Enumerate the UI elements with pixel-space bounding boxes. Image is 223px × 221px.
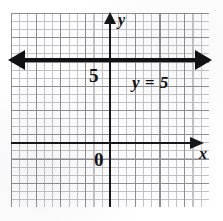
line-arrow-right-icon — [195, 50, 212, 70]
arrow-up-icon — [104, 12, 116, 24]
equation-label: y = 5 — [132, 74, 169, 91]
y-axis-tick-label-5: 5 — [89, 66, 99, 85]
y-axis-label: y — [118, 12, 125, 28]
coordinate-graph-figure: y x 5 0 y = 5 — [0, 0, 223, 221]
origin-label: 0 — [94, 150, 104, 169]
x-axis-label: x — [199, 146, 207, 162]
x-axis-line — [11, 142, 196, 144]
y-axis-line — [109, 20, 111, 207]
plotted-line-y-equals-5 — [22, 58, 200, 62]
line-arrow-left-icon — [8, 50, 25, 70]
